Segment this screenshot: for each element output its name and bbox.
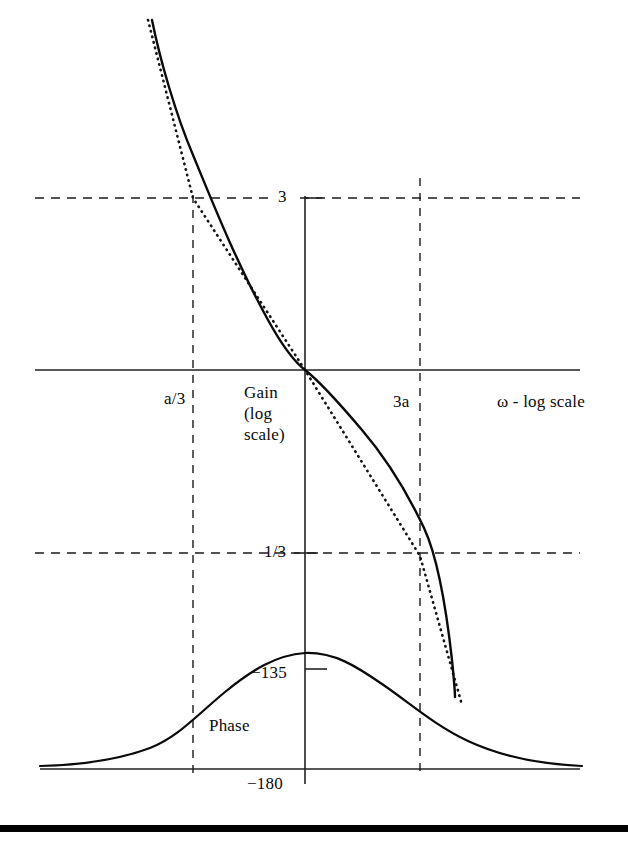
phase-curve xyxy=(40,653,582,766)
phase-curve-label: Phase xyxy=(209,716,250,736)
bode-plot-figure: 3 1/3 a/3 3a Gain (log scale) ω - log sc… xyxy=(0,0,628,841)
gain-tick-label-one-third: 1/3 xyxy=(264,542,286,562)
phase-tick-label-minus-135: −135 xyxy=(251,663,287,683)
axes xyxy=(35,196,580,784)
gain-tick-label-3: 3 xyxy=(278,187,287,207)
plot-canvas xyxy=(0,0,628,841)
phase-tick-label-minus-180: −180 xyxy=(247,774,283,794)
gain-actual-curve xyxy=(152,20,455,697)
gain-axis-label: Gain (log scale) xyxy=(244,382,285,445)
omega-axis-label: ω - log scale xyxy=(497,392,585,412)
frequency-tick-label-3a: 3a xyxy=(393,392,409,412)
guide-lines xyxy=(35,178,580,773)
bottom-rule xyxy=(0,825,628,832)
frequency-tick-label-a-over-3: a/3 xyxy=(164,389,185,409)
